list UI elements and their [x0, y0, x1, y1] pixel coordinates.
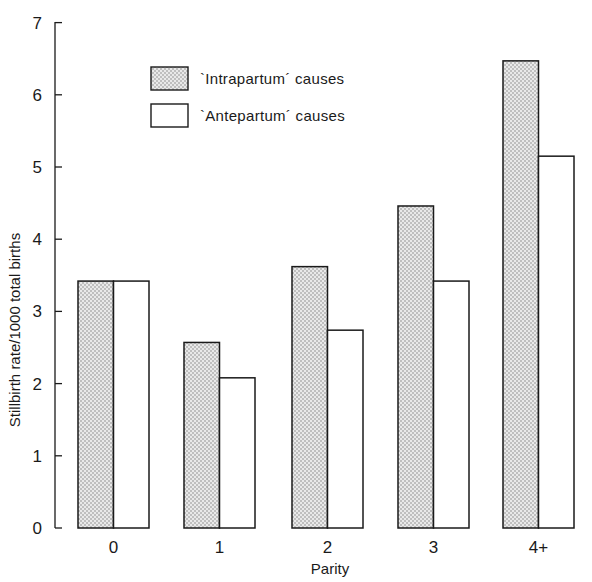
legend-swatch-intrapartum [151, 67, 188, 90]
x-tick-label: 1 [215, 538, 224, 557]
x-tick-labels: 01234+ [109, 538, 548, 557]
bar-group-0 [78, 281, 149, 528]
x-tick-label: 0 [109, 538, 118, 557]
bar-antepartum [434, 281, 470, 528]
bar-antepartum [220, 378, 256, 528]
bar-group-2 [292, 267, 363, 528]
bar-antepartum [114, 281, 150, 528]
x-axis-title: Parity [311, 560, 350, 577]
bar-antepartum [539, 156, 575, 528]
bar-group-1 [184, 342, 255, 528]
legend-label-antepartum: `Antepartum´ causes [200, 107, 345, 124]
y-tick-label: 1 [33, 447, 42, 466]
y-axis-title: Stillbirth rate/1000 total births [6, 233, 23, 427]
legend-label-intrapartum: `Intrapartum´ causes [200, 70, 344, 87]
x-tick-label: 4+ [529, 538, 548, 557]
x-tick-label: 3 [429, 538, 438, 557]
bar-intrapartum [398, 206, 434, 528]
y-ticks: 01234567 [33, 14, 62, 538]
y-tick-label: 4 [33, 230, 42, 249]
bar-intrapartum [503, 61, 539, 528]
bar-group-4plus [503, 61, 574, 528]
y-tick-label: 5 [33, 158, 42, 177]
x-tick-label: 2 [323, 538, 332, 557]
y-tick-label: 3 [33, 302, 42, 321]
y-axis: 01234567 [33, 14, 62, 538]
bar-chart: 01234567 01234+ Parity Stillbirth rate/1… [0, 0, 592, 582]
y-tick-label: 6 [33, 86, 42, 105]
y-tick-label: 7 [33, 14, 42, 33]
bar-group-3 [398, 206, 469, 528]
bar-groups [78, 61, 574, 528]
legend: `Intrapartum´ causes `Antepartum´ causes [151, 67, 345, 127]
bar-antepartum [328, 330, 364, 528]
y-tick-label: 2 [33, 375, 42, 394]
y-tick-label: 0 [33, 519, 42, 538]
legend-swatch-antepartum [151, 104, 188, 127]
bar-intrapartum [78, 281, 114, 528]
bar-intrapartum [184, 342, 220, 528]
bar-intrapartum [292, 267, 328, 528]
